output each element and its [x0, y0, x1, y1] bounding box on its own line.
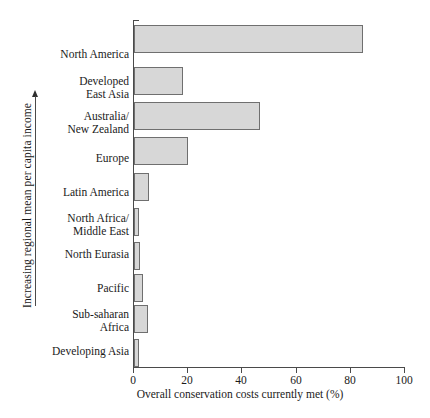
category-label-text: Europe — [96, 152, 129, 164]
category-label-europe: Europe — [9, 152, 129, 165]
bar-north-africa-middle-east — [134, 208, 139, 236]
category-label-developing-asia: Developing Asia — [9, 345, 129, 358]
x-tick-40 — [241, 368, 242, 373]
category-label-text-line2: Africa — [100, 321, 129, 333]
x-axis-line — [133, 367, 405, 368]
category-label-sub-saharan-africa: Sub-saharan Africa — [9, 308, 129, 334]
bar-north-america — [134, 25, 363, 53]
bar-sub-saharan-africa — [134, 305, 148, 333]
x-tick-80 — [350, 368, 351, 373]
x-tick-label-40: 40 — [221, 374, 261, 386]
category-label-north-america: North America — [9, 48, 129, 61]
bar-developed-east-asia — [134, 67, 183, 95]
category-label-text-line2: Middle East — [73, 225, 129, 237]
x-tick-0 — [133, 368, 134, 373]
x-tick-label-80: 80 — [330, 374, 370, 386]
category-label-north-eurasia: North Eurasia — [9, 248, 129, 261]
bar-latin-america — [134, 173, 149, 201]
x-tick-60 — [296, 368, 297, 373]
category-label-text: Latin America — [63, 186, 129, 198]
category-label-text-line1: Sub-saharan — [72, 308, 129, 320]
bar-developing-asia — [134, 339, 139, 367]
category-label-australia-new-zealand: Australia/ New Zealand — [9, 110, 129, 136]
x-tick-20 — [187, 368, 188, 373]
category-label-latin-america: Latin America — [9, 186, 129, 199]
bar-australia-new-zealand — [134, 102, 260, 130]
category-label-text: North America — [60, 48, 129, 60]
category-label-north-africa-middle-east: North Africa/ Middle East — [9, 212, 129, 238]
category-label-text-line2: East Asia — [86, 88, 129, 100]
category-label-text: Pacific — [97, 282, 129, 294]
category-label-pacific: Pacific — [9, 282, 129, 295]
x-tick-100 — [404, 368, 405, 373]
category-label-text-line1: Developed — [79, 75, 129, 87]
x-axis-title: Overall conservation costs currently met… — [60, 388, 420, 400]
category-label-developed-east-asia: Developed East Asia — [9, 75, 129, 101]
x-tick-label-20: 20 — [167, 374, 207, 386]
bar-north-eurasia — [134, 242, 140, 270]
category-label-text-line2: New Zealand — [67, 123, 129, 135]
category-label-text: North Eurasia — [65, 248, 129, 260]
x-tick-label-60: 60 — [276, 374, 316, 386]
bar-europe — [134, 137, 188, 165]
category-labels: North America Developed East Asia Austra… — [5, 20, 129, 367]
x-tick-label-100: 100 — [384, 374, 424, 386]
category-label-text-line1: North Africa/ — [67, 212, 129, 224]
y-axis-top-cap-tick — [133, 20, 139, 21]
category-label-text: Developing Asia — [52, 345, 129, 357]
x-tick-label-0: 0 — [113, 374, 153, 386]
bar-pacific — [134, 274, 143, 302]
plot-area: 0 20 40 60 80 100 — [133, 20, 404, 367]
bar-chart-figure: Increasing regional mean per capita inco… — [0, 0, 430, 418]
category-label-text-line1: Australia/ — [84, 110, 129, 122]
